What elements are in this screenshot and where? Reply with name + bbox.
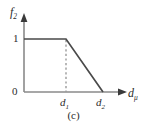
x-axis-arrowhead-icon <box>118 89 127 96</box>
y-axis-label-subscript: 2 <box>13 12 17 21</box>
figure-panel-c: f2 1 0 d1 d2 dμ (c) <box>0 0 147 129</box>
figure-caption: (c) <box>0 110 147 121</box>
data-curve-f2 <box>24 39 103 92</box>
y-axis-arrowhead-icon <box>21 13 28 22</box>
x-axis-label: dμ <box>128 87 138 102</box>
x-axis-label-subscript: μ <box>134 93 138 102</box>
y-axis-label: f2 <box>10 6 17 21</box>
y-tick-label-0: 0 <box>12 86 18 97</box>
y-tick-label-1: 1 <box>13 33 19 44</box>
